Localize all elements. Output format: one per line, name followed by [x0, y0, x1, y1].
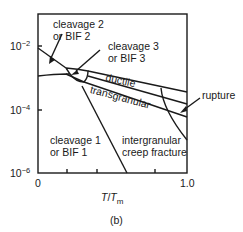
label-line: cleavage 3 — [108, 40, 159, 52]
x-axis-label: T/Tm — [101, 191, 123, 208]
label-line: or BIF 2 — [53, 30, 104, 42]
label-line: creep fracture — [122, 146, 187, 158]
x-label-sub: m — [117, 197, 124, 206]
y-tick-1e-6: 10−6 — [10, 167, 30, 179]
label-line: or BIF 1 — [50, 146, 101, 158]
x-tick-0: 0 — [35, 177, 41, 189]
y-tick-1e-2: 10−2 — [10, 40, 30, 52]
y-tick-base: 10 — [10, 40, 22, 52]
figure-caption: (b) — [110, 214, 123, 226]
label-intergranular: intergranular creep fracture — [122, 134, 187, 158]
label-line: or BIF 3 — [108, 52, 159, 64]
y-tick-exp: −4 — [22, 103, 31, 112]
y-tick-base: 10 — [10, 104, 22, 116]
label-line: intergranular — [122, 134, 187, 146]
y-tick-1e-4: 10−4 — [10, 104, 30, 116]
label-rupture: rupture — [202, 89, 235, 101]
label-line: cleavage 1 — [50, 134, 101, 146]
y-tick-exp: −6 — [22, 166, 31, 175]
boundary-rupture — [161, 88, 187, 140]
label-cleavage2: cleavage 2 or BIF 2 — [53, 18, 104, 42]
x-tick-1: 1.0 — [180, 177, 195, 189]
label-cleavage1: cleavage 1 or BIF 1 — [50, 134, 101, 158]
label-cleavage3: cleavage 3 or BIF 3 — [108, 40, 159, 64]
label-line: cleavage 2 — [53, 18, 104, 30]
y-tick-exp: −2 — [22, 39, 31, 48]
y-tick-base: 10 — [10, 167, 22, 179]
